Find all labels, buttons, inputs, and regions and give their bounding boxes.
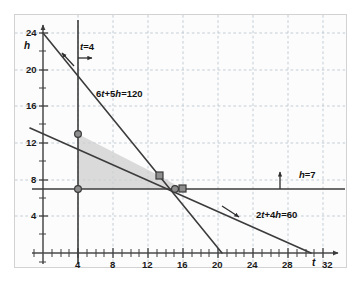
label-t-equals-4: t=4 [80,42,94,52]
label-2t-4h-60-c: =60 [281,209,297,220]
label-6t-5h-120: 6t+5h=120 [96,89,143,99]
x-tick-label-4: 4 [75,260,80,270]
line-6t-5h-120 [43,33,222,253]
x-tick-label-20: 20 [212,260,223,270]
x-tick-label-28: 28 [282,260,293,270]
y-axis-label: h [24,41,30,51]
chart-figure: h t 24 20 16 12 8 4 4 8 12 16 20 24 28 3… [0,0,361,281]
graph-canvas [0,0,361,281]
x-axis-label: t [312,258,315,268]
x-tick-label-24: 24 [247,260,258,270]
y-tick-label-12: 12 [26,138,37,148]
vertex-point [179,185,186,192]
y-tick-label-20: 20 [26,65,37,75]
y-tick-label-8: 8 [31,175,36,185]
label-6t-5h-120-b: +5 [104,88,115,99]
label-2t-4h-60-b: +4 [264,209,275,220]
x-tick-label-8: 8 [110,260,115,270]
x-tick-label-32: 32 [322,260,333,270]
feasible-region-shading [78,134,183,189]
x-tick-label-12: 12 [142,260,153,270]
x-tick-label-16: 16 [177,260,188,270]
label-h-equals-7-rest: =7 [305,169,316,180]
y-tick-label-4: 4 [31,211,36,221]
label-6t-5h-120-c: =120 [121,88,142,99]
y-tick-label-24: 24 [26,28,37,38]
label-h-equals-7: h=7 [299,170,316,180]
label-t-equals-4-rest: =4 [83,41,94,52]
y-tick-label-16: 16 [26,101,37,111]
vertex-point [172,186,179,193]
label-2t-4h-60: 2t+4h=60 [256,210,297,220]
vertex-point [156,172,163,179]
line-2t-4h-60 [30,128,311,253]
vertex-point [75,131,82,138]
vertex-point [75,186,82,193]
grid-lines-vertical [78,15,323,267]
